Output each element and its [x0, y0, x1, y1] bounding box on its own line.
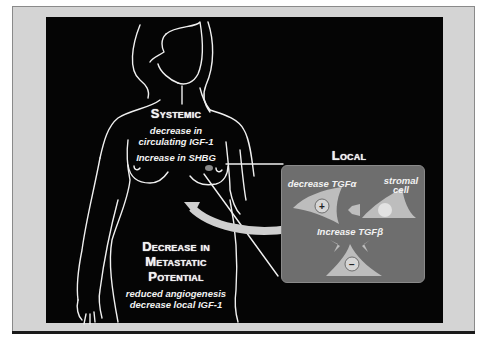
stromal-label-2: cell [378, 185, 424, 194]
outcome-line-2: decrease local IGF-1 [110, 299, 242, 310]
outcome-title-line-2: Metastatic [120, 254, 232, 269]
outcome-title-line-3: Potential [120, 269, 232, 284]
increase-tgf-beta-label: Increase TGFβ [312, 226, 388, 237]
local-title: Local [318, 148, 380, 163]
outcome-line-1: reduced angiogenesis [110, 288, 242, 299]
systemic-title: Systemic [120, 106, 232, 121]
arrow-down-left [330, 240, 340, 252]
arrow-down-right [362, 240, 370, 252]
outcome-title-line-1: Decrease in [120, 239, 232, 254]
plus-symbol: + [319, 201, 325, 212]
systemic-line-2: circulating IGF-1 [120, 136, 232, 147]
systemic-line-3: Increase in SHBG [120, 152, 232, 163]
arrow-to-plus [348, 204, 360, 216]
minus-symbol: − [349, 259, 355, 270]
cell-interaction-diagram: + − [0, 0, 485, 341]
decrease-tgf-alpha-label: decrease TGFα [284, 178, 360, 189]
systemic-line-1: decrease in [120, 125, 232, 136]
